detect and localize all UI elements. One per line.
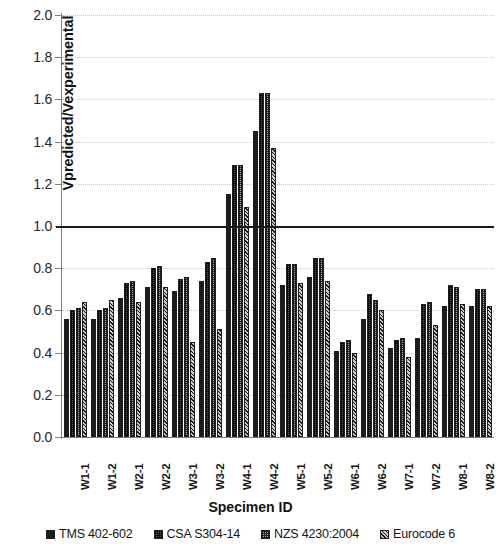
bar xyxy=(286,264,291,437)
bar xyxy=(244,207,249,437)
bar xyxy=(325,281,330,437)
legend-swatch-icon xyxy=(261,530,270,539)
bar xyxy=(352,353,357,437)
bar xyxy=(313,258,318,437)
bar xyxy=(232,165,237,437)
bar xyxy=(124,283,129,437)
y-tick-label: 0.2 xyxy=(4,388,52,402)
bar xyxy=(373,300,378,437)
y-tick-label: 1.6 xyxy=(4,92,52,106)
bar-chart: 2.01.81.61.41.21.00.80.60.40.20.0 Vpredi… xyxy=(0,0,501,544)
bar xyxy=(190,342,195,437)
bar xyxy=(292,264,297,437)
bar xyxy=(238,165,243,437)
bar xyxy=(226,194,231,437)
y-tick-mark xyxy=(55,268,62,269)
bar xyxy=(448,285,453,437)
y-tick-label: 1.2 xyxy=(4,177,52,191)
bar xyxy=(334,351,339,438)
y-tick-mark xyxy=(55,437,62,438)
bar xyxy=(361,319,366,437)
bar xyxy=(367,294,372,437)
bar xyxy=(253,131,258,437)
y-tick-mark xyxy=(55,310,62,311)
x-tick-label: W6-2 xyxy=(377,438,389,490)
bar xyxy=(271,148,276,437)
legend-swatch-icon xyxy=(46,530,55,539)
bar xyxy=(118,298,123,437)
legend-swatch-icon xyxy=(380,530,389,539)
bar xyxy=(172,291,177,437)
legend-item: Eurocode 6 xyxy=(380,527,455,541)
bar xyxy=(145,287,150,437)
y-tick-label: 0.4 xyxy=(4,346,52,360)
legend-item: NZS 4230:2004 xyxy=(261,527,359,541)
x-tick-label: W7-1 xyxy=(404,438,416,490)
y-axis-title: Vpredicted/Vexperimental xyxy=(60,0,76,223)
bar xyxy=(475,289,480,437)
y-tick-label: 1.4 xyxy=(4,135,52,149)
x-tick-label: W4-2 xyxy=(269,438,281,490)
y-tick-label: 1.8 xyxy=(4,50,52,64)
x-tick-label: W1-2 xyxy=(107,438,119,490)
bar xyxy=(97,310,102,437)
legend-label: TMS 402-602 xyxy=(59,527,133,541)
legend-label: NZS 4230:2004 xyxy=(274,527,359,541)
x-tick-label: W6-1 xyxy=(350,438,362,490)
bar xyxy=(82,302,87,437)
y-tick-label: 2.0 xyxy=(4,8,52,22)
bar xyxy=(433,325,438,437)
bar xyxy=(406,357,411,437)
bar xyxy=(157,266,162,437)
x-tick-label: W8-2 xyxy=(485,438,497,490)
x-tick-label: W1-1 xyxy=(80,438,92,490)
bar xyxy=(415,338,420,437)
bar xyxy=(178,279,183,437)
bar xyxy=(469,306,474,437)
y-tick-label: 0.0 xyxy=(4,430,52,444)
bar xyxy=(151,268,156,437)
bar xyxy=(421,304,426,437)
x-tick-label: W3-1 xyxy=(188,438,200,490)
legend-label: CSA S304-14 xyxy=(167,527,241,541)
chart-legend: TMS 402-602CSA S304-14NZS 4230:2004Euroc… xyxy=(0,524,501,544)
legend-swatch-icon xyxy=(154,530,163,539)
y-tick-label: 0.8 xyxy=(4,261,52,275)
bar xyxy=(427,302,432,437)
bar xyxy=(394,340,399,437)
x-tick-label: W5-1 xyxy=(296,438,308,490)
legend-label: Eurocode 6 xyxy=(393,527,455,541)
x-tick-label: W4-1 xyxy=(242,438,254,490)
bar xyxy=(481,289,486,437)
bar xyxy=(199,281,204,437)
bar xyxy=(340,342,345,437)
x-tick-label: W3-2 xyxy=(215,438,227,490)
bar xyxy=(442,306,447,437)
bar xyxy=(307,277,312,437)
bar xyxy=(319,258,324,437)
bar xyxy=(487,306,492,437)
legend-item: TMS 402-602 xyxy=(46,527,133,541)
bar xyxy=(298,283,303,437)
reference-line-1.0 xyxy=(56,226,494,228)
bar xyxy=(346,340,351,437)
y-tick-mark xyxy=(55,353,62,354)
bar xyxy=(211,258,216,437)
bar xyxy=(130,281,135,437)
legend-item: CSA S304-14 xyxy=(154,527,241,541)
x-tick-label: W8-1 xyxy=(458,438,470,490)
bar xyxy=(70,310,75,437)
x-tick-label: W5-2 xyxy=(323,438,335,490)
bar xyxy=(454,287,459,437)
bar xyxy=(259,93,264,437)
x-tick-label: W2-2 xyxy=(161,438,173,490)
bar xyxy=(76,308,81,437)
y-tick-label: 0.6 xyxy=(4,303,52,317)
bar xyxy=(136,302,141,437)
bar xyxy=(205,262,210,437)
x-tick-label: W2-1 xyxy=(134,438,146,490)
y-tick-mark xyxy=(55,395,62,396)
bar xyxy=(64,319,69,437)
bar xyxy=(400,338,405,437)
bar xyxy=(184,277,189,437)
